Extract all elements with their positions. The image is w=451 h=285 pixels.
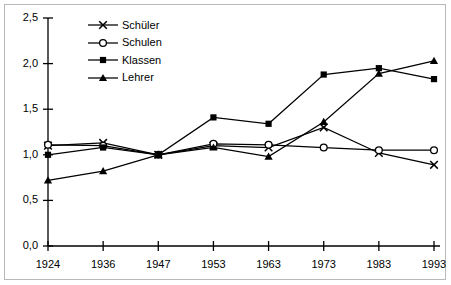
data-point-marker [45,141,52,148]
chart-figure: 0,00,51,01,52,02,51924193619471953196319… [0,0,451,285]
x-axis-tick-label: 1924 [26,259,70,270]
legend-item-lehrer: Lehrer [88,70,154,86]
data-point-marker [320,144,327,151]
legend-marker-glyph [100,39,107,46]
data-point-marker [265,141,272,148]
data-point-marker [431,147,438,154]
x-axis-tick-label: 1936 [81,259,125,270]
x-axis-tick-label: 1983 [357,259,401,270]
x-axis-tick-label: 1993 [412,259,451,270]
x-axis-tick-label: 1973 [302,259,346,270]
y-axis-tick-label: 1,0 [8,149,38,160]
data-point-marker [210,114,216,120]
data-point-marker [430,57,438,64]
legend-label: Schüler [122,20,159,31]
data-point-marker [265,121,271,127]
y-axis-tick-label: 2,0 [8,58,38,69]
legend-marker-filled-triangle-icon [88,71,118,85]
legend-marker-open-circle-icon [88,36,118,50]
data-point-marker [45,152,51,158]
y-axis-tick-label: 2,5 [8,12,38,23]
legend-item-klassen: Klassen [88,52,161,68]
data-point-marker [100,144,106,150]
legend-item-schüler: Schüler [88,17,159,33]
data-point-marker [375,147,382,154]
y-axis-tick-label: 0,0 [8,240,38,251]
legend-label: Lehrer [122,72,154,83]
legend-item-schulen: Schulen [88,35,162,51]
legend-label: Schulen [122,37,162,48]
data-point-marker [431,76,437,82]
legend-label: Klassen [122,55,161,66]
data-point-marker [321,71,327,77]
legend-marker-x-cross-icon [88,18,118,32]
legend-marker-glyph [100,57,106,63]
chart-plot-area [0,0,451,285]
x-axis-tick-label: 1947 [136,259,180,270]
x-axis-tick-label: 1953 [191,259,235,270]
y-axis-tick-label: 1,5 [8,103,38,114]
y-axis-tick-label: 0,5 [8,194,38,205]
legend-marker-filled-square-icon [88,53,118,67]
x-axis-tick-label: 1963 [247,259,291,270]
